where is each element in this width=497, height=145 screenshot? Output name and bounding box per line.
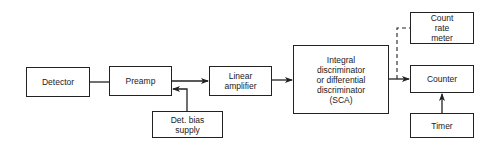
preamp-block: Preamp (109, 66, 172, 96)
count-rate-meter-label-line2: rate (435, 23, 450, 33)
preamp-label: Preamp (126, 76, 156, 86)
diagram-canvas: Detector Preamp Linear amplifier Det. bi… (0, 0, 497, 145)
edge-sca-count-rate-meter (397, 28, 410, 79)
sca-label-line3: or differential (317, 75, 366, 85)
linear-amplifier-label-line1: Linear (229, 71, 253, 81)
sca-label-line1: Integral (327, 55, 355, 65)
det-bias-supply-block: Det. bias supply (152, 111, 223, 138)
counter-label: Counter (427, 74, 457, 84)
sca-block: Integral discriminator or differential d… (293, 45, 389, 114)
det-bias-supply-label-line2: supply (175, 125, 200, 135)
timer-block: Timer (410, 113, 474, 138)
sca-label-line2: discriminator (317, 65, 365, 75)
detector-label: Detector (42, 77, 74, 87)
linear-amplifier-block: Linear amplifier (209, 66, 272, 96)
linear-amplifier-label-line2: amplifier (224, 81, 256, 91)
count-rate-meter-label-line1: Count (431, 13, 454, 23)
edge-bias-preamp (173, 89, 187, 111)
det-bias-supply-label-line1: Det. bias (171, 115, 205, 125)
detector-block: Detector (26, 67, 90, 97)
counter-block: Counter (410, 65, 474, 93)
timer-label: Timer (431, 121, 452, 131)
sca-label-line4: discriminator (317, 85, 365, 95)
count-rate-meter-block: Count rate meter (410, 12, 474, 44)
count-rate-meter-label-line3: meter (431, 33, 453, 43)
sca-label-line5: (SCA) (329, 95, 352, 105)
